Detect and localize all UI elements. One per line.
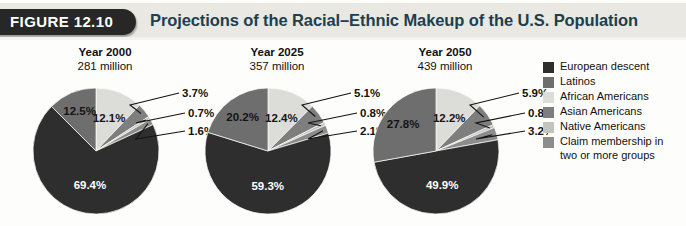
legend-item-label: European descent [560,60,649,74]
legend-item: Native Americans [543,120,686,134]
legend-item: Asian Americans [543,105,686,119]
legend-swatch-icon [543,122,554,133]
legend-swatch-icon [543,107,554,118]
legend-item-label: Asian Americans [560,105,642,119]
legend-item-label: Latinos [560,75,595,89]
pie-chart-graphic: 12.2%5.9%0.8%3.2%49.9%27.8% [348,46,548,218]
legend-item-label-line2: two or more groups [560,149,663,163]
legend-item: Claim membership intwo or more groups [543,135,686,162]
legend-item-label: Native Americans [560,120,646,134]
pie-chart: Year 2050439 million12.2%5.9%0.8%3.2%49.… [348,46,548,218]
legend-item: European descent [543,60,686,74]
legend-item: African Americans [543,90,686,104]
legend-item: Latinos [543,75,686,89]
figure-root: FIGURE 12.10 Projections of the Racial–E… [0,0,686,226]
slice-leader-line [130,93,179,114]
pie-slice-label: 12.1% [93,112,126,124]
figure-header-band: FIGURE 12.10 Projections of the Racial–E… [0,3,686,37]
figure-number-tab: FIGURE 12.10 [0,9,136,35]
legend-item-label: African Americans [560,90,649,104]
pie-slice-label: 49.9% [426,179,459,191]
legend-swatch-icon [543,137,554,148]
pie-slice-label: 12.4% [265,112,298,124]
legend-swatch-icon [543,62,554,73]
figure-number-label: FIGURE 12.10 [10,9,134,35]
chart-legend: European descentLatinosAfrican Americans… [543,60,686,164]
figure-title: Projections of the Racial–Ethnic Makeup … [150,11,638,30]
pie-slice-label: 69.4% [74,179,107,191]
pie-slice-label: 12.5% [63,105,96,117]
pie-slice-label: 12.2% [433,112,466,124]
pie-slice-label: 20.2% [226,111,259,123]
legend-swatch-icon [543,92,554,103]
pie-slice-label: 27.8% [387,118,420,130]
pie-slice-label: 59.3% [251,180,284,192]
legend-item-label: Claim membership intwo or more groups [560,135,663,162]
legend-swatch-icon [543,77,554,88]
